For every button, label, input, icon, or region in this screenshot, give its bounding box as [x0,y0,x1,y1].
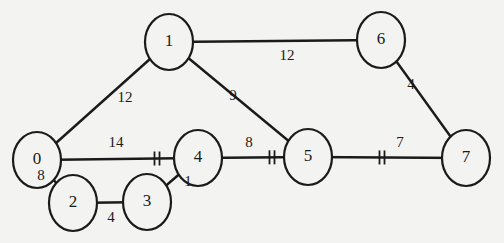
edge-weight-label: 7 [396,134,404,150]
node-label: 3 [143,191,152,210]
graph-diagram: 01234567 1212941487841 [0,0,504,243]
node-label: 7 [462,147,471,166]
edge-weight-label: 1 [184,173,192,189]
node-1: 1 [145,14,193,70]
edge-weight-label: 9 [229,87,237,103]
edge-weight-label: 12 [280,47,295,63]
node-label: 5 [304,146,313,165]
edge-weight-label: 4 [407,76,415,92]
node-label: 0 [33,149,42,168]
node-label: 6 [377,29,386,48]
nodes-layer: 01234567 [13,12,490,231]
node-5: 5 [284,129,332,185]
edge-weight-label: 8 [245,134,253,150]
node-2: 2 [49,175,97,231]
node-3: 3 [123,174,171,230]
edge-weight-label: 12 [118,89,133,105]
edge-1-6 [169,40,381,42]
edge-weight-label: 8 [37,167,45,183]
node-4: 4 [174,130,222,186]
node-6: 6 [357,12,405,68]
node-label: 1 [165,31,174,50]
node-7: 7 [442,130,490,186]
node-label: 2 [69,192,78,211]
edge-weight-label: 4 [107,209,115,225]
node-label: 4 [194,147,203,166]
edge-weight-label: 14 [109,134,125,150]
edges-layer [37,40,466,203]
